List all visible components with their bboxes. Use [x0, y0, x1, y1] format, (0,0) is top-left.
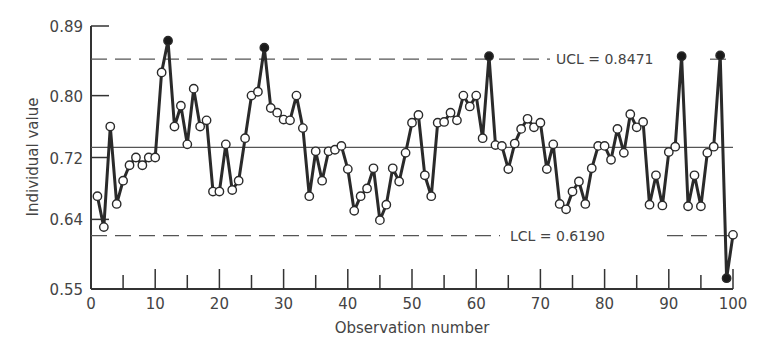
data-point	[183, 140, 191, 148]
data-line	[97, 41, 733, 279]
data-point	[671, 142, 679, 150]
y-tick-label: 0.89	[50, 18, 83, 36]
data-point	[138, 161, 146, 169]
data-point	[588, 164, 596, 172]
data-point	[376, 216, 384, 224]
data-point	[543, 165, 551, 173]
data-point	[607, 156, 615, 164]
data-point	[234, 177, 242, 185]
data-point	[337, 142, 345, 150]
data-point	[562, 205, 570, 213]
data-point	[459, 91, 467, 99]
y-tick-label: 0.55	[50, 281, 83, 299]
x-axis-title: Observation number	[335, 319, 490, 337]
data-point	[517, 125, 525, 133]
out-of-control-point	[260, 43, 268, 51]
data-point	[652, 171, 660, 179]
data-point	[453, 116, 461, 124]
data-point	[395, 177, 403, 185]
data-point	[356, 192, 364, 200]
data-point	[106, 122, 114, 130]
data-point	[549, 140, 557, 148]
data-point	[177, 101, 185, 109]
data-point	[478, 134, 486, 142]
data-point	[575, 177, 583, 185]
data-point	[112, 200, 120, 208]
data-point	[382, 200, 390, 208]
x-tick-label: 60	[467, 295, 486, 313]
data-point	[658, 201, 666, 209]
x-tick-label: 70	[531, 295, 550, 313]
data-point	[273, 108, 281, 116]
data-point	[408, 118, 416, 126]
data-point	[498, 142, 506, 150]
data-point	[613, 125, 621, 133]
data-point	[421, 171, 429, 179]
data-point	[427, 192, 435, 200]
data-point	[299, 124, 307, 132]
x-tick-label: 50	[402, 295, 421, 313]
data-point	[93, 192, 101, 200]
data-point	[292, 91, 300, 99]
y-tick-label: 0.80	[50, 88, 83, 106]
data-point	[401, 149, 409, 157]
data-point	[684, 202, 692, 210]
data-point	[389, 164, 397, 172]
data-point	[600, 142, 608, 150]
data-point	[639, 118, 647, 126]
x-tick-label: 20	[210, 295, 229, 313]
data-point	[222, 140, 230, 148]
x-tick-label: 80	[595, 295, 614, 313]
data-point	[318, 177, 326, 185]
data-series	[93, 36, 737, 282]
data-point	[170, 122, 178, 130]
data-point	[151, 153, 159, 161]
out-of-control-point	[485, 52, 493, 60]
data-point	[157, 68, 165, 76]
data-point	[254, 88, 262, 96]
data-point	[344, 165, 352, 173]
data-point	[581, 200, 589, 208]
data-point	[620, 149, 628, 157]
data-point	[504, 165, 512, 173]
lcl-label: LCL = 0.6190	[510, 228, 605, 244]
data-point	[511, 139, 519, 147]
data-point	[125, 161, 133, 169]
data-point	[729, 231, 737, 239]
x-tick-label: 10	[146, 295, 165, 313]
data-point	[241, 134, 249, 142]
x-tick-label: 100	[719, 295, 748, 313]
out-of-control-point	[164, 36, 172, 44]
data-point	[305, 192, 313, 200]
x-tick-label: 0	[86, 295, 96, 313]
data-point	[132, 153, 140, 161]
out-of-control-point	[677, 52, 685, 60]
data-point	[710, 142, 718, 150]
data-point	[202, 116, 210, 124]
data-point	[119, 177, 127, 185]
y-tick-label: 0.64	[50, 211, 83, 229]
data-point	[536, 118, 544, 126]
data-point	[215, 187, 223, 195]
out-of-control-point	[716, 51, 724, 59]
x-tick-label: 90	[659, 295, 678, 313]
y-tick-label: 0.72	[50, 150, 83, 168]
data-point	[228, 186, 236, 194]
data-point	[100, 223, 108, 231]
data-point	[690, 171, 698, 179]
data-point	[190, 84, 198, 92]
data-point	[414, 111, 422, 119]
data-point	[466, 102, 474, 110]
data-point	[472, 91, 480, 99]
x-tick-label: 40	[338, 295, 357, 313]
data-point	[350, 207, 358, 215]
out-of-control-point	[722, 274, 730, 282]
data-point	[626, 110, 634, 118]
data-point	[440, 118, 448, 126]
data-point	[446, 108, 454, 116]
data-point	[363, 184, 371, 192]
data-point	[523, 115, 531, 123]
control-chart: 0.550.640.720.800.8901020304050607080901…	[0, 0, 767, 349]
data-point	[645, 200, 653, 208]
ucl-label: UCL = 0.8471	[556, 51, 653, 67]
